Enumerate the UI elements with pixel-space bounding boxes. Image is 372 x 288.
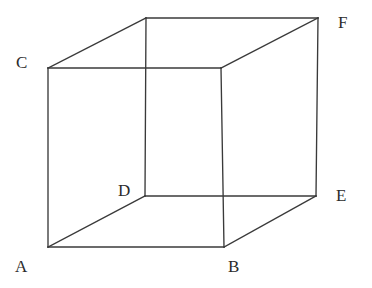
cube-edge-d-g (145, 18, 146, 196)
cube-edge-a-d (48, 196, 145, 247)
cube-edge-c-g (48, 18, 146, 68)
vertex-label-e: E (336, 187, 346, 204)
vertex-label-b: B (228, 258, 239, 275)
cube-edge-b-e (224, 196, 316, 247)
cube-edge-e-f (316, 18, 318, 196)
vertex-label-f: F (338, 14, 347, 31)
vertex-label-d: D (118, 182, 130, 199)
cube-edge-group (48, 18, 318, 247)
cube-figure: A B C D E F (0, 0, 372, 288)
cube-wireframe-svg (0, 0, 372, 288)
cube-edge-f-h (221, 18, 318, 68)
vertex-label-a: A (15, 258, 27, 275)
cube-edge-b-h (221, 68, 224, 247)
vertex-label-c: C (16, 54, 27, 71)
